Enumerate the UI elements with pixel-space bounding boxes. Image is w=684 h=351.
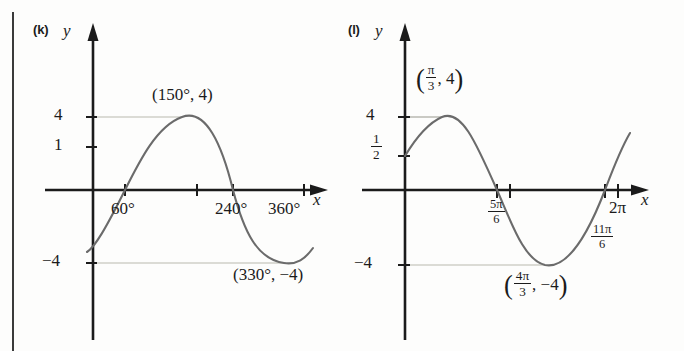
- fraction-11pi-6: 11π 6: [591, 223, 613, 251]
- x-tick-label-5pi6-l: 5π 6: [487, 199, 506, 227]
- fraction-denominator: 6: [491, 212, 501, 225]
- close-paren: ): [454, 71, 463, 90]
- fraction-pi-3: π 3: [426, 63, 437, 93]
- annotation-y-value: , −4: [532, 275, 559, 295]
- fraction-denominator: 3: [517, 284, 528, 298]
- y-tick-label-neg4-k: −4: [42, 251, 60, 271]
- x-tick-label-11pi6-l: 11π 6: [590, 224, 614, 252]
- annotation-y-value: , 4: [437, 69, 454, 89]
- x-tick-label-240-k: 240°: [215, 199, 247, 219]
- fraction-numerator: 1: [371, 132, 382, 147]
- y-tick-label-half-l: 1 2: [370, 133, 383, 163]
- figure-page: (k) y x 4 1 −4 6: [0, 0, 684, 351]
- y-tick-label-4-l: 4: [366, 105, 375, 125]
- y-tick-label-4-k: 4: [54, 105, 63, 125]
- x-tick-label-60-k: 60°: [111, 199, 135, 219]
- x-tick-label-360-k: 360°: [268, 199, 300, 219]
- fraction-denominator: 3: [426, 78, 437, 92]
- chart-svg-k: [0, 0, 342, 351]
- annotation-min-k: (330°, −4): [233, 265, 303, 285]
- annotation-max-l: ( π 3 , 4 ): [416, 64, 463, 94]
- close-paren: ): [559, 277, 568, 296]
- y-tick-label-neg4-l: −4: [354, 253, 372, 273]
- y-axis-arrow-l: [400, 23, 411, 41]
- x-axis-arrow-k: [310, 185, 328, 196]
- fraction-numerator: 4π: [514, 269, 531, 284]
- fraction-numerator: 11π: [591, 223, 613, 237]
- chart-panel-k: (k) y x 4 1 −4 6: [0, 0, 342, 351]
- fraction-numerator: π: [426, 63, 437, 78]
- fraction-denominator: 6: [597, 237, 607, 250]
- x-axis-arrow-l: [631, 185, 649, 196]
- fraction-one-half: 1 2: [371, 132, 382, 162]
- y-axis-arrow-k: [88, 23, 99, 41]
- x-tick-label-2pi-l: 2π: [609, 198, 626, 218]
- fraction-5pi-6: 5π 6: [488, 198, 505, 226]
- annotation-max-k: (150°, 4): [152, 85, 213, 105]
- y-tick-label-1-k: 1: [54, 135, 63, 155]
- open-paren: (: [504, 277, 513, 296]
- annotation-min-l: ( 4π 3 , −4 ): [504, 270, 567, 300]
- chart-panel-l: (l) y x 4: [342, 0, 684, 351]
- fraction-denominator: 2: [371, 147, 382, 161]
- fraction-4pi-3: 4π 3: [514, 269, 531, 299]
- open-paren: (: [416, 71, 425, 90]
- fraction-numerator: 5π: [488, 198, 505, 212]
